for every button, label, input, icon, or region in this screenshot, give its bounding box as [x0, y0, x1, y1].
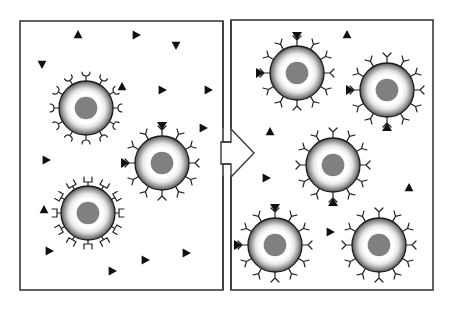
- receptor-y-icon: [302, 241, 312, 249]
- cell-nucleus: [376, 79, 399, 102]
- free-ligand-icon: [43, 156, 51, 165]
- receptor-y-icon: [121, 158, 135, 168]
- receptor-y-icon: [414, 86, 424, 94]
- cell-before: [52, 177, 124, 249]
- receptor-y-icon: [346, 85, 360, 95]
- receptor-y-icon: [270, 204, 280, 218]
- receptor-y-icon: [375, 272, 383, 282]
- receptor-y-icon: [383, 53, 391, 63]
- free-ligand-icon: [263, 174, 271, 183]
- receptor-y-icon: [360, 161, 370, 169]
- cell-nucleus: [286, 62, 309, 85]
- free-ligand-icon: [142, 256, 150, 265]
- receptor-cup-icon: [82, 135, 90, 144]
- receptor-y-icon: [271, 272, 279, 282]
- free-ligand-icon: [266, 127, 275, 135]
- cell-nucleus: [75, 97, 98, 120]
- cell-before: [121, 122, 199, 200]
- receptor-y-icon: [342, 241, 352, 249]
- cell-after: [256, 32, 334, 110]
- free-ligand-icon: [109, 267, 117, 276]
- receptor-y-icon: [158, 190, 166, 200]
- receptor-y-icon: [157, 122, 167, 136]
- cell-nucleus: [264, 234, 287, 257]
- cell-nucleus: [77, 202, 100, 225]
- free-ligand-icon: [118, 82, 127, 90]
- cell-after: [296, 128, 370, 206]
- free-ligand-icon: [405, 183, 414, 191]
- receptor-square-icon: [52, 209, 61, 217]
- receptor-y-icon: [329, 128, 337, 138]
- cell-after: [342, 208, 416, 282]
- receptor-cup-icon: [82, 72, 90, 81]
- receptor-y-icon: [324, 69, 334, 77]
- receptor-square-icon: [115, 209, 124, 217]
- cell-binding-diagram: [0, 0, 452, 310]
- receptor-y-icon: [382, 117, 392, 131]
- free-ligand-icon: [159, 86, 167, 95]
- free-ligand-icon: [327, 228, 335, 237]
- receptor-square-icon: [84, 240, 92, 249]
- free-ligand-icon: [74, 30, 83, 38]
- free-ligand-icon: [46, 247, 54, 256]
- free-ligand-icon: [343, 30, 352, 38]
- receptor-y-icon: [375, 208, 383, 218]
- receptor-y-icon: [296, 161, 306, 169]
- free-ligand-icon: [205, 86, 213, 95]
- cell-nucleus: [151, 152, 174, 175]
- receptor-y-icon: [189, 159, 199, 167]
- receptor-y-icon: [292, 32, 302, 46]
- free-ligand-icon: [183, 249, 191, 258]
- free-ligand-icon: [38, 61, 47, 69]
- diagram-canvas: [0, 0, 452, 310]
- receptor-y-icon: [406, 241, 416, 249]
- cell-before: [50, 72, 122, 144]
- cell-after: [346, 53, 424, 131]
- free-ligand-icon: [200, 124, 208, 133]
- receptor-y-icon: [293, 100, 301, 110]
- receptor-cup-icon: [113, 104, 122, 112]
- receptor-cup-icon: [50, 104, 59, 112]
- free-ligand-icon: [133, 31, 141, 40]
- cell-after: [234, 204, 312, 282]
- receptor-y-icon: [256, 68, 270, 78]
- cell-nucleus: [368, 234, 391, 257]
- free-ligand-icon: [40, 205, 49, 213]
- free-ligand-icon: [172, 42, 181, 50]
- receptor-square-icon: [84, 177, 92, 186]
- cell-nucleus: [322, 154, 345, 177]
- receptor-y-icon: [234, 240, 248, 250]
- receptor-y-icon: [328, 192, 338, 206]
